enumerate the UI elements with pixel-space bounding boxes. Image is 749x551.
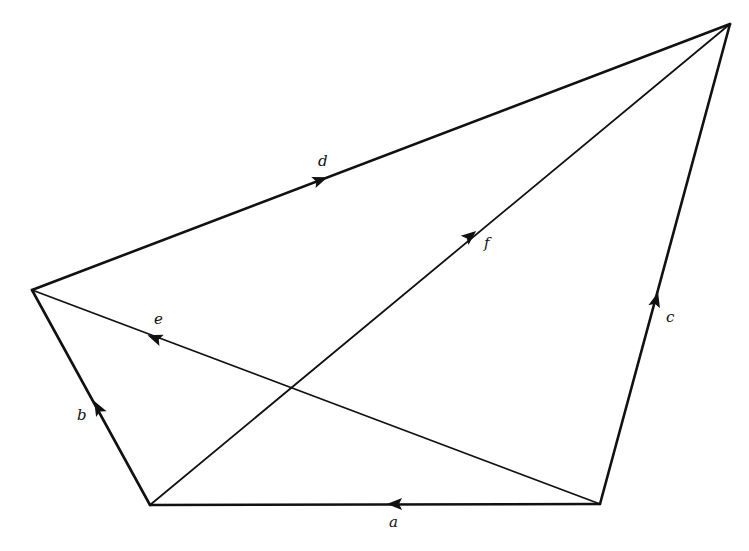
- edge-label-c: c: [666, 308, 675, 326]
- edge-d: [32, 24, 730, 290]
- vector-diagram: abcdef: [0, 0, 749, 551]
- edge-label-e: e: [154, 310, 163, 328]
- edge-label-f: f: [483, 234, 492, 252]
- edge-c: [600, 24, 730, 504]
- arrow-icon-d: [311, 172, 329, 189]
- edge-e: [32, 290, 600, 504]
- arrow-icon-f: [461, 226, 480, 245]
- edge-label-a: a: [389, 513, 398, 531]
- edge-label-b: b: [77, 406, 87, 424]
- edge-b: [32, 290, 150, 505]
- edge-label-d: d: [318, 152, 328, 170]
- edge-f: [150, 24, 730, 505]
- edge-a: [150, 504, 600, 505]
